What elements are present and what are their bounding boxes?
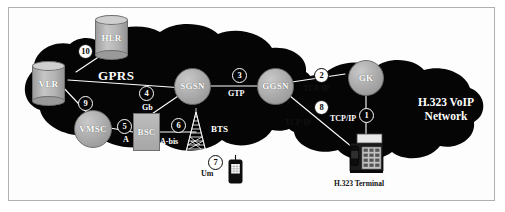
- node-bts-label: BTS: [211, 125, 228, 134]
- node-sgsn-label: SGSN: [180, 82, 204, 91]
- node-hlr-label: HLR: [95, 33, 128, 42]
- hlr-cylinder-bottom: [95, 50, 128, 60]
- badge-9[interactable]: 9: [78, 96, 93, 111]
- node-ggsn[interactable]: GGSN: [257, 68, 294, 105]
- hlr-cylinder-top: [95, 15, 128, 25]
- voip-cloud-label: H.323 VoIP Network: [398, 95, 494, 124]
- interface-label-um: Um: [201, 170, 213, 178]
- badge-5[interactable]: 5: [117, 119, 132, 134]
- badge-7[interactable]: 7: [208, 155, 223, 170]
- node-gk[interactable]: GK: [348, 60, 384, 96]
- badge-1[interactable]: 1: [359, 108, 374, 123]
- node-hlr[interactable]: HLR: [95, 15, 128, 60]
- badge-4[interactable]: 4: [139, 86, 154, 101]
- gprs-cloud-label: GPRS: [98, 69, 134, 82]
- node-ggsn-label: GGSN: [262, 82, 288, 91]
- badge-3[interactable]: 3: [232, 68, 247, 83]
- diagram-canvas: GPRS H.323 VoIP Network HLR VLR VMSC SGS…: [0, 0, 505, 212]
- badge-6[interactable]: 6: [171, 118, 186, 133]
- interface-label-abis: A-bis: [160, 138, 178, 146]
- mobile-handset-icon: [229, 155, 242, 183]
- node-vlr[interactable]: VLR: [32, 61, 65, 106]
- node-vmsc-label: VMSC: [79, 125, 106, 134]
- node-h323-terminal-label: H.323 Terminal: [334, 180, 384, 188]
- interface-label-gb: Gb: [142, 104, 153, 112]
- vlr-cylinder-top: [32, 61, 65, 71]
- badge-10[interactable]: 10: [78, 44, 93, 59]
- interface-label-tcpip-gk-terminal: TCP/IP: [330, 115, 356, 123]
- voip-cloud-label-line1: H.323 VoIP: [398, 95, 494, 109]
- node-bsc[interactable]: BSC: [133, 113, 160, 151]
- badge-8[interactable]: 8: [314, 100, 329, 115]
- voip-cloud-label-line2: Network: [398, 109, 494, 123]
- node-gk-label: GK: [359, 74, 373, 83]
- node-vlr-label: VLR: [32, 79, 65, 88]
- interface-label-gtp: GTP: [228, 90, 244, 98]
- vlr-cylinder-bottom: [32, 96, 65, 106]
- node-vmsc[interactable]: VMSC: [74, 110, 112, 148]
- badge-2[interactable]: 2: [314, 68, 329, 83]
- node-sgsn[interactable]: SGSN: [174, 68, 211, 105]
- interface-label-tcpip-ggsn-terminal: TCP/IP: [285, 119, 311, 127]
- interface-label-tcpip-ggsn-gk: TCP/IP: [303, 85, 329, 93]
- node-bsc-label: BSC: [137, 128, 155, 137]
- interface-label-a: A: [123, 136, 129, 144]
